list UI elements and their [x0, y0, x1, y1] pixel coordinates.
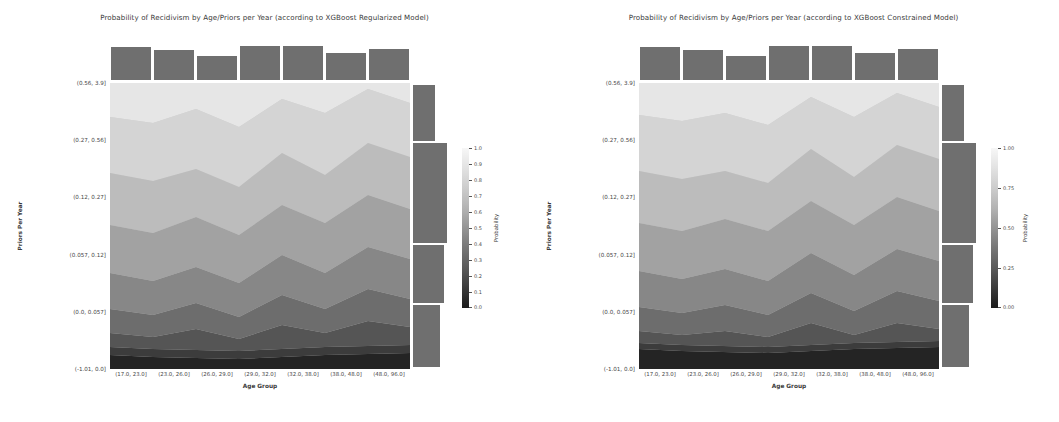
- y-axis-ticks-left: (0.56, 3.9] (0.27, 0.56] (0.12, 0.27] (0…: [0, 83, 106, 369]
- marginal-bar: [812, 46, 852, 80]
- marginal-bar: [898, 49, 938, 80]
- x-tick-label: (48.0, 96.0]: [902, 371, 934, 377]
- y-tick-label: (0.0, 0.057]: [73, 309, 106, 315]
- y-tick-label: (0.057, 0.12]: [599, 252, 635, 258]
- x-tick-label: (26.0, 29.0]: [730, 371, 762, 377]
- x-tick-label: (32.0, 38.0]: [816, 371, 848, 377]
- colorbar-tick-label: 1.0: [474, 145, 482, 151]
- x-axis-title-right: Age Group: [639, 383, 939, 389]
- x-tick-label: (17.0, 23.0]: [115, 371, 147, 377]
- colorbar-tick-label: 0.3: [474, 257, 482, 263]
- colorbar-tick-label: 0.9: [474, 161, 482, 167]
- marginal-bar: [413, 305, 440, 367]
- colorbar-tick-label: 0.6: [474, 209, 482, 215]
- marginal-bar: [413, 245, 444, 303]
- x-tick-label: (32.0, 38.0]: [287, 371, 319, 377]
- chart-title-left: Probability of Recidivism by Age/Priors …: [0, 13, 529, 22]
- marginal-bar: [769, 46, 809, 80]
- colorbar-tick-label: 0.4: [474, 241, 482, 247]
- colorbar-tick-label: 1.00: [1003, 145, 1014, 151]
- x-tick-label: (26.0, 29.0]: [201, 371, 233, 377]
- colorbar-tick-label: 0.1: [474, 289, 482, 295]
- y-tick-label: (0.27, 0.56]: [73, 137, 106, 143]
- y-tick-label: (0.56, 3.9]: [77, 80, 106, 86]
- marginal-bar: [111, 47, 151, 80]
- panel-regularized-model: Probability of Recidivism by Age/Priors …: [0, 0, 529, 422]
- marginal-bar: [326, 53, 366, 80]
- colorbar-title-right: Probability: [1022, 214, 1028, 243]
- right-marginal-histogram-right: [942, 83, 977, 369]
- contour-plot-left: [110, 83, 410, 369]
- y-tick-label: (0.12, 0.27]: [602, 194, 635, 200]
- colorbar-tick-label: 0.7: [474, 193, 482, 199]
- marginal-bar: [942, 85, 964, 141]
- x-tick-label: (38.0, 48.0]: [859, 371, 891, 377]
- contour-plot-right: [639, 83, 939, 369]
- marginal-bar: [413, 143, 447, 243]
- y-tick-label: (-1.01, 0.0]: [604, 366, 635, 372]
- marginal-bar: [855, 53, 895, 80]
- top-marginal-histogram-right: [639, 41, 939, 80]
- colorbar-tick-label: 0.50: [1003, 225, 1014, 231]
- y-axis-ticks-right: (0.56, 3.9] (0.27, 0.56] (0.12, 0.27] (0…: [529, 83, 635, 369]
- colorbar-left: 1.0 0.9 0.8 0.7 0.6 0.5 0.4 0.3 0.2 0.1 …: [462, 148, 522, 308]
- y-tick-label: (0.057, 0.12]: [70, 252, 106, 258]
- contour-surface: [639, 83, 939, 369]
- colorbar-gradient: [991, 148, 998, 308]
- x-tick-label: (17.0, 23.0]: [644, 371, 676, 377]
- marginal-bar: [240, 46, 280, 80]
- x-tick-label: (38.0, 48.0]: [330, 371, 362, 377]
- colorbar-tick-label: 0.75: [1003, 185, 1014, 191]
- colorbar-tick-label: 0.2: [474, 273, 482, 279]
- x-tick-label: (23.0, 26.0]: [687, 371, 719, 377]
- marginal-bar: [942, 143, 976, 243]
- y-tick-label: (0.12, 0.27]: [73, 194, 106, 200]
- y-tick-label: (0.27, 0.56]: [602, 137, 635, 143]
- marginal-bar: [413, 85, 435, 141]
- marginal-bar: [154, 50, 194, 80]
- colorbar-tick-label: 0.0: [474, 304, 482, 310]
- marginal-bar: [726, 56, 766, 80]
- top-marginal-histogram-left: [110, 41, 410, 80]
- y-tick-label: (-1.01, 0.0]: [75, 366, 106, 372]
- y-tick-label: (0.56, 3.9]: [606, 80, 635, 86]
- y-axis-title-right: Priors Per Year: [546, 202, 552, 251]
- colorbar-tick-label: 0.25: [1003, 265, 1014, 271]
- marginal-bar: [942, 305, 969, 367]
- contour-surface: [110, 83, 410, 369]
- colorbar-title-left: Probability: [493, 214, 499, 243]
- y-tick-label: (0.0, 0.057]: [602, 309, 635, 315]
- y-axis-title-left: Priors Per Year: [17, 202, 23, 251]
- figure-canvas: Probability of Recidivism by Age/Priors …: [0, 0, 1059, 422]
- x-tick-label: (23.0, 26.0]: [158, 371, 190, 377]
- chart-title-right: Probability of Recidivism by Age/Priors …: [529, 13, 1058, 22]
- marginal-bar: [942, 245, 973, 303]
- marginal-bar: [369, 49, 409, 80]
- colorbar-gradient: [462, 148, 469, 308]
- panel-constrained-model: Probability of Recidivism by Age/Priors …: [529, 0, 1058, 422]
- colorbar-tick-label: 0.00: [1003, 304, 1014, 310]
- x-tick-label: (48.0, 96.0]: [373, 371, 405, 377]
- marginal-bar: [283, 46, 323, 80]
- x-axis-title-left: Age Group: [110, 383, 410, 389]
- colorbar-right: 1.00 0.75 0.50 0.25 0.00 Probability: [991, 148, 1051, 308]
- colorbar-tick-label: 0.8: [474, 177, 482, 183]
- x-tick-label: (29.0, 32.0]: [773, 371, 805, 377]
- marginal-bar: [640, 47, 680, 80]
- x-tick-label: (29.0, 32.0]: [244, 371, 276, 377]
- right-marginal-histogram-left: [413, 83, 448, 369]
- marginal-bar: [197, 56, 237, 80]
- marginal-bar: [683, 50, 723, 80]
- colorbar-tick-label: 0.5: [474, 225, 482, 231]
